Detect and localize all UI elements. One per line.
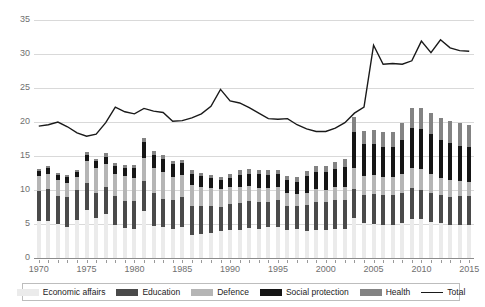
square-swatch-icon	[17, 289, 39, 296]
x-tick-mark	[393, 260, 394, 263]
x-axis-tick-labels: 1970197519801985199019952000200520102015	[34, 260, 474, 274]
y-tick-label-0: 0	[4, 253, 30, 262]
legend-label: Total	[447, 288, 465, 297]
x-tick-mark	[173, 260, 174, 263]
x-tick-mark	[115, 260, 116, 263]
legend-item-economic-affairs[interactable]: Economic affairs	[17, 288, 106, 297]
x-tick-label-2000: 2000	[316, 264, 336, 274]
legend-item-health[interactable]: Health	[360, 288, 411, 297]
x-tick-mark	[48, 260, 49, 263]
line-swatch-icon	[421, 292, 443, 293]
x-tick-mark	[287, 260, 288, 263]
x-tick-mark	[268, 260, 269, 263]
x-tick-label-1975: 1975	[77, 264, 97, 274]
plot-area	[34, 20, 474, 258]
y-tick-label-25: 25	[4, 83, 30, 92]
y-tick-label-20: 20	[4, 117, 30, 126]
square-swatch-icon	[260, 289, 282, 296]
x-tick-mark	[230, 260, 231, 263]
x-tick-mark	[144, 260, 145, 263]
x-tick-label-1970: 1970	[29, 264, 49, 274]
x-tick-mark	[297, 260, 298, 263]
x-tick-mark	[106, 260, 107, 263]
x-tick-mark	[211, 260, 212, 263]
x-tick-mark	[125, 260, 126, 263]
x-tick-mark	[182, 260, 183, 263]
x-tick-mark	[87, 260, 88, 263]
y-tick-label-35: 35	[4, 15, 30, 24]
y-tick-label-10: 10	[4, 185, 30, 194]
x-tick-mark	[354, 260, 355, 263]
x-tick-mark	[249, 260, 250, 263]
x-tick-mark	[77, 260, 78, 263]
x-tick-mark	[259, 260, 260, 263]
x-tick-mark	[154, 260, 155, 263]
y-tick-label-30: 30	[4, 49, 30, 58]
chart-legend: Economic affairsEducationDefenceSocial p…	[22, 283, 460, 301]
x-tick-mark	[39, 260, 40, 263]
x-tick-mark	[335, 260, 336, 263]
x-tick-mark	[201, 260, 202, 263]
x-tick-mark	[431, 260, 432, 263]
x-tick-mark	[402, 260, 403, 263]
x-tick-mark	[441, 260, 442, 263]
x-tick-label-2015: 2015	[459, 264, 479, 274]
x-tick-mark	[58, 260, 59, 263]
legend-label: Defence	[217, 288, 249, 297]
x-tick-mark	[421, 260, 422, 263]
legend-item-defence[interactable]: Defence	[191, 288, 249, 297]
chart-container: 05101520253035 1970197519801985199019952…	[0, 0, 485, 307]
legend-label: Education	[142, 288, 180, 297]
x-tick-label-1985: 1985	[172, 264, 192, 274]
legend-label: Economic affairs	[43, 288, 106, 297]
x-tick-mark	[96, 260, 97, 263]
legend-label: Health	[386, 288, 411, 297]
x-tick-label-1995: 1995	[268, 264, 288, 274]
x-tick-mark	[240, 260, 241, 263]
x-axis-line	[34, 258, 474, 259]
square-swatch-icon	[191, 289, 213, 296]
x-tick-mark	[326, 260, 327, 263]
square-swatch-icon	[360, 289, 382, 296]
x-tick-mark	[163, 260, 164, 263]
x-tick-mark	[412, 260, 413, 263]
x-tick-mark	[307, 260, 308, 263]
x-tick-label-1990: 1990	[220, 264, 240, 274]
x-tick-mark	[316, 260, 317, 263]
x-tick-mark	[469, 260, 470, 263]
x-tick-mark	[374, 260, 375, 263]
x-tick-mark	[134, 260, 135, 263]
square-swatch-icon	[116, 289, 138, 296]
x-tick-mark	[192, 260, 193, 263]
total-line-path	[39, 40, 469, 137]
x-tick-mark	[450, 260, 451, 263]
x-tick-mark	[364, 260, 365, 263]
x-tick-mark	[278, 260, 279, 263]
x-tick-mark	[345, 260, 346, 263]
x-tick-mark	[383, 260, 384, 263]
y-tick-label-15: 15	[4, 151, 30, 160]
x-tick-label-2005: 2005	[364, 264, 384, 274]
legend-item-total[interactable]: Total	[421, 288, 465, 297]
y-tick-label-5: 5	[4, 219, 30, 228]
x-tick-label-2010: 2010	[411, 264, 431, 274]
legend-item-social-protection[interactable]: Social protection	[260, 288, 349, 297]
y-axis-tick-labels: 05101520253035	[0, 20, 30, 258]
x-tick-label-1980: 1980	[124, 264, 144, 274]
x-tick-mark	[460, 260, 461, 263]
x-tick-mark	[221, 260, 222, 263]
legend-label: Social protection	[286, 288, 349, 297]
x-tick-mark	[67, 260, 68, 263]
legend-item-education[interactable]: Education	[116, 288, 180, 297]
total-line-series	[34, 20, 474, 258]
